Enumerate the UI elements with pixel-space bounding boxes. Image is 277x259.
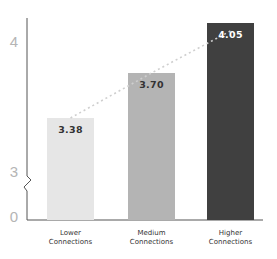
value-label-medium: 3.70	[128, 79, 175, 90]
value-label-higher: 4.05	[207, 29, 254, 40]
trend-line	[71, 31, 231, 118]
value-label-lower: 3.38	[47, 124, 94, 135]
bar-chart: 4 3 0 3.38 3.70 4.05 Lower Connections M…	[0, 0, 277, 259]
